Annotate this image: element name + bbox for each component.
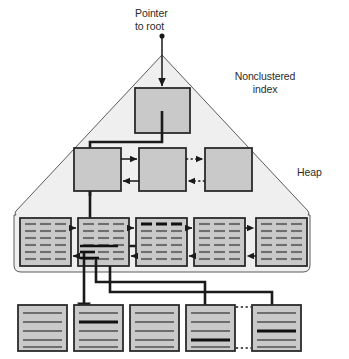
leaf-page-3 [136, 218, 187, 266]
intermediate-node-3 [205, 148, 252, 191]
leaf-page-1 [20, 218, 71, 266]
heap-level [18, 305, 301, 351]
heap-page-5 [252, 305, 301, 351]
intermediate-level [74, 148, 252, 191]
label-pointer-to-root: Pointer to root [135, 7, 168, 32]
leaf-level [20, 218, 307, 266]
heap-page-3 [130, 305, 179, 351]
label-nonclustered-index: Nonclustered index [213, 70, 317, 95]
heap-page-2 [74, 305, 123, 351]
leaf-page-4 [194, 218, 245, 266]
index-heap-diagram: Pointer to root Nonclustered index Heap [0, 0, 349, 359]
heap-page-1 [18, 305, 67, 351]
heap-page-4 [186, 305, 235, 351]
leaf-page-5 [256, 218, 307, 266]
intermediate-node-1 [74, 148, 121, 191]
label-heap: Heap [297, 166, 322, 179]
intermediate-node-2 [139, 148, 186, 191]
diagram-canvas [0, 0, 349, 359]
